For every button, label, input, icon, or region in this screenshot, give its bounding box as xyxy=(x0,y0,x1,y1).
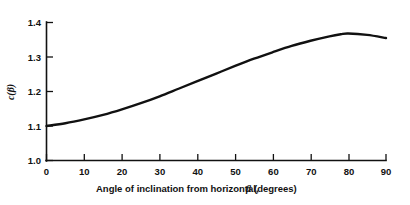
y-tick-label: 1.2 xyxy=(28,86,41,97)
x-tick-label: 30 xyxy=(155,166,166,177)
line-chart: 1.4 1.3 1.2 1.1 1.0 0 10 20 30 40 50 60 … xyxy=(0,0,410,205)
x-tick-label: 70 xyxy=(306,166,317,177)
x-tick-label: 90 xyxy=(381,166,392,177)
y-tick-label: 1.4 xyxy=(28,17,42,28)
x-axis-title: Angle of inclination from horizontal, β … xyxy=(96,183,297,194)
y-tick-label: 1.0 xyxy=(28,155,41,166)
y-axis-title: c(β) xyxy=(5,84,17,100)
x-axis-title-before: Angle of inclination from horizontal, xyxy=(96,183,259,194)
x-tick-label: 60 xyxy=(268,166,279,177)
x-axis-title-after: (degrees) xyxy=(254,183,297,194)
y-tick-label: 1.3 xyxy=(28,52,41,63)
beta-symbol: β xyxy=(245,183,252,194)
x-tick-label: 0 xyxy=(44,166,49,177)
x-tick-label: 80 xyxy=(344,166,355,177)
y-axis-title-text: c(β) xyxy=(5,84,17,100)
x-tick-label: 10 xyxy=(79,166,90,177)
y-tick-label: 1.1 xyxy=(28,121,42,132)
x-tick-label: 20 xyxy=(117,166,128,177)
x-tick-label: 50 xyxy=(230,166,241,177)
x-tick-label: 40 xyxy=(193,166,204,177)
chart-figure: 1.4 1.3 1.2 1.1 1.0 0 10 20 30 40 50 60 … xyxy=(0,0,410,205)
